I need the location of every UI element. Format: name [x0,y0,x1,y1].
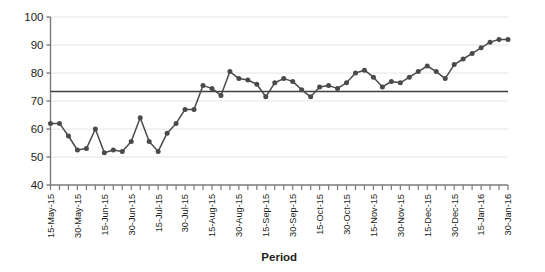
data-point: 10-Dec-15: 80.5 [416,69,421,74]
data-point: 15-Sep-15: 71.5 [263,94,268,99]
data-point: 30-Oct-15: 76.5 [344,80,349,85]
data-point: 30-Jan-16: 92 [506,37,511,42]
y-tick-label: 80 [31,67,44,79]
data-point: 20-Nov-15: 75 [380,85,385,90]
data-point: 20-Jul-15: 58.5 [165,131,170,136]
data-point: 15-Nov-15: 78.5 [371,75,376,80]
data-point: 25-Jun-15: 52 [120,149,125,154]
y-tick-label: 60 [31,123,44,135]
x-tick-label: 15-Jan-16 [476,194,486,235]
data-point: 30-Dec-15: 83 [452,62,457,67]
data-point: 20-Sep-15: 76.5 [272,80,277,85]
x-tick-label: 30-Nov-15 [396,194,406,237]
x-tick-label: 30-Oct-15 [342,194,352,235]
y-tick-label: 70 [31,95,44,107]
y-tick-label: 100 [24,11,43,23]
data-point: 25-Oct-15: 74.5 [335,86,340,91]
y-tick-label: 40 [31,179,44,191]
x-tick-label: 30-Sep-15 [288,194,298,237]
data-point: 10-Jul-15: 55.5 [147,139,152,144]
data-point: 09-Aug-15: 75.5 [201,83,206,88]
data-point: 09-Sep-15: 76 [254,82,259,87]
data-point: 04-Sep-15: 77.5 [245,78,250,83]
data-point: 15-Jun-15: 51.5 [102,150,107,155]
data-point: 20-May-15: 62 [57,121,62,126]
x-tick-label: 15-Sep-15 [261,194,271,237]
x-tick-label: 15-Jun-15 [100,194,110,235]
data-point: 09-Nov-15: 81 [362,68,367,73]
x-tick-label: 15-Oct-15 [315,194,325,235]
data-point: 25-Aug-15: 80.5 [227,69,232,74]
data-point: 20-Jan-16: 91 [488,40,493,45]
data-point: 04-Nov-15: 80 [353,71,358,76]
data-point: 04-Jan-16: 85 [461,57,466,62]
data-point: 04-Aug-15: 67 [192,107,197,112]
y-tick-label: 90 [31,39,44,51]
data-point: 10-Oct-15: 71.5 [308,94,313,99]
data-point: 09-Jan-16: 87 [470,51,475,56]
data-point: 20-Jun-15: 52.5 [111,148,116,153]
data-point: 15-Jan-16: 89 [479,45,484,50]
data-point: 09-Jun-15: 60 [93,127,98,132]
chart-canvas: 40506070809010015-May-1530-May-1515-Jun-… [0,0,545,272]
data-point: 25-Dec-15: 78 [443,76,448,81]
x-tick-label: 15-May-15 [46,194,56,238]
data-point: 30-May-15: 52.5 [75,148,80,153]
x-tick-label: 15-Dec-15 [423,194,433,237]
data-point: 30-Jun-15: 55.5 [129,139,134,144]
data-point: 05-Jul-15: 64 [138,115,143,120]
x-tick-label: 30-Jan-16 [503,194,513,235]
x-tick-label: 15-Aug-15 [207,194,217,237]
x-tick-label: 30-Jun-15 [127,194,137,235]
x-tick-label: 15-Jul-15 [154,194,164,232]
data-point: 20-Dec-15: 80.5 [434,69,439,74]
x-axis-title: Period [261,251,297,263]
data-point: 30-Nov-15: 76.5 [398,80,403,85]
data-point: 25-May-15: 57.5 [66,134,71,139]
x-tick-label: 15-Nov-15 [369,194,379,237]
data-point: 15-Dec-15: 82.5 [425,64,430,69]
y-tick-label: 50 [31,151,44,163]
data-point: 15-Aug-15: 74.5 [209,86,214,91]
data-point: 25-Nov-15: 77 [389,79,394,84]
data-point: 25-Sep-15: 78 [281,76,286,81]
data-point: 15-Oct-15: 75 [317,85,322,90]
x-tick-label: 30-May-15 [73,194,83,238]
data-point: 20-Oct-15: 75.5 [326,83,331,88]
x-tick-label: 30-Dec-15 [450,194,460,237]
data-point: 20-Aug-15: 72 [218,93,223,98]
data-point: 05-Oct-15: 74 [299,87,304,92]
data-point: 25-Jan-16: 92 [497,37,502,42]
x-tick-label: 30-Aug-15 [234,194,244,237]
data-point: 05-Dec-15: 78.5 [407,75,412,80]
data-point: 15-May-15: 62 [48,121,53,126]
data-point: 04-Jun-15: 53 [84,146,89,151]
data-point: 15-Jul-15: 52 [156,149,161,154]
data-point: 30-Aug-15: 78 [236,76,241,81]
x-tick-label: 30-Jul-15 [180,194,190,232]
line-chart: 40506070809010015-May-1530-May-1515-Jun-… [0,0,545,272]
data-point: 25-Jul-15: 62 [174,121,179,126]
data-point: 30-Jul-15: 67 [183,107,188,112]
data-point: 30-Sep-15: 77 [290,79,295,84]
data-series-line [51,39,509,152]
